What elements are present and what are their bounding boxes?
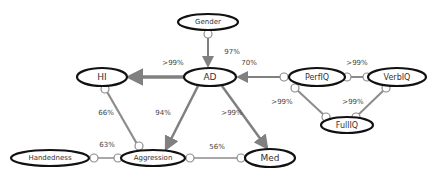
edge-label: 94%: [155, 109, 171, 117]
edge-perfiq-ad: [238, 73, 288, 81]
node-label: VerbIQ: [384, 73, 411, 82]
node-label: Aggression: [134, 154, 173, 162]
edge-line: [166, 86, 198, 149]
endpoint-circle-icon: [291, 84, 299, 92]
node-verbiq[interactable]: VerbIQ: [368, 68, 426, 86]
edge-ad-med: [222, 86, 267, 148]
node-label: Handedness: [28, 154, 72, 162]
edge-label: >99%: [221, 109, 243, 117]
edge-label: 66%: [98, 109, 114, 117]
edge-aggression-med: [186, 154, 245, 162]
node-med[interactable]: Med: [245, 149, 295, 167]
edge-line: [222, 86, 267, 148]
edge-line: [106, 90, 137, 144]
node-label: PerfIQ: [305, 73, 329, 82]
edge-perfiq-verbiq: [343, 73, 371, 81]
node-ad[interactable]: AD: [184, 68, 236, 86]
node-fulliq[interactable]: FullIQ: [321, 117, 373, 133]
node-hi[interactable]: HI: [77, 68, 127, 86]
node-label: FullIQ: [336, 121, 358, 130]
edge-label: >99%: [346, 59, 368, 67]
edge-line: [296, 89, 325, 116]
endpoint-circle-icon: [90, 154, 98, 162]
endpoint-circle-icon: [186, 154, 194, 162]
edge-label: 70%: [241, 59, 257, 67]
edge-label: 97%: [224, 48, 240, 56]
endpoint-circle-icon: [237, 154, 245, 162]
edge-label: >99%: [271, 98, 293, 106]
edges-layer: [90, 30, 390, 162]
edge-gender-ad: [204, 30, 212, 66]
endpoint-circle-icon: [135, 142, 143, 150]
edge-label: 63%: [99, 141, 115, 149]
node-handedness[interactable]: Handedness: [11, 150, 89, 166]
node-label: HI: [97, 72, 106, 82]
node-label: Med: [260, 153, 279, 163]
node-label: AD: [203, 72, 216, 82]
node-perfiq[interactable]: PerfIQ: [289, 68, 345, 86]
edge-label: >99%: [342, 98, 364, 106]
node-gender[interactable]: Gender: [178, 14, 238, 30]
edge-label: 56%: [209, 143, 225, 151]
endpoint-circle-icon: [280, 73, 288, 81]
causal-graph: GenderADHIPerfIQVerbIQFullIQHandednessAg…: [0, 0, 436, 178]
endpoint-circle-icon: [204, 30, 212, 38]
edge-label: >99%: [162, 59, 184, 67]
edge-perfiq-fulliq: [291, 84, 330, 121]
node-aggression[interactable]: Aggression: [121, 150, 185, 166]
node-label: Gender: [195, 18, 221, 26]
edge-handedness-aggression: [90, 154, 122, 162]
edge-ad-aggression: [166, 86, 198, 149]
